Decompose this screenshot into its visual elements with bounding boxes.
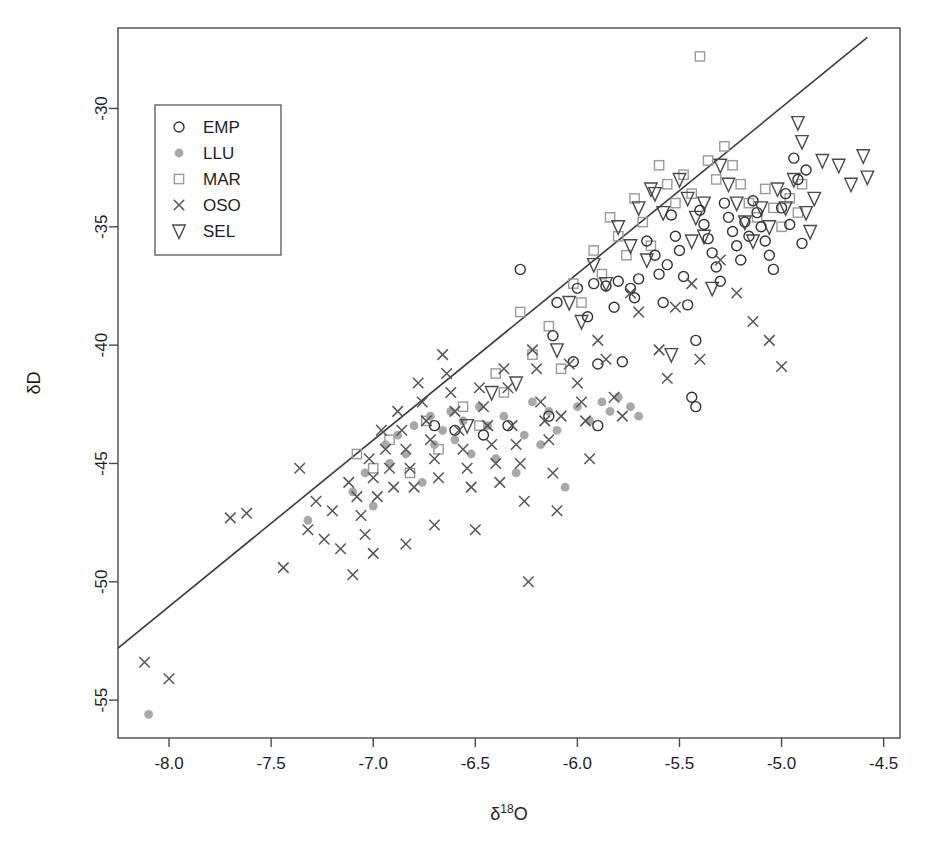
legend-marker-llu — [175, 149, 184, 158]
x-tick-label: -6.0 — [563, 754, 592, 773]
point-llu — [553, 426, 562, 435]
point-llu — [401, 450, 410, 459]
legend-label-oso: OSO — [203, 196, 241, 215]
point-llu — [385, 459, 394, 468]
y-tick-label: -40 — [92, 333, 111, 358]
point-llu — [606, 407, 615, 416]
point-llu — [491, 454, 500, 463]
point-llu — [369, 502, 378, 511]
legend-label-sel: SEL — [203, 222, 235, 241]
point-llu — [410, 421, 419, 430]
point-llu — [626, 402, 635, 411]
y-tick-label: -55 — [92, 688, 111, 713]
y-tick-label: -30 — [92, 96, 111, 121]
point-llu — [512, 469, 521, 478]
x-tick-label: -5.0 — [767, 754, 796, 773]
point-llu — [144, 710, 153, 719]
x-tick-label: -5.5 — [665, 754, 694, 773]
y-axis-title: δD — [24, 371, 44, 394]
y-tick-label: -45 — [92, 451, 111, 476]
scatter-plot-figure: -8.0-7.5-7.0-6.5-6.0-5.5-5.0-4.5 -55-50-… — [0, 0, 930, 859]
legend-label-emp: EMP — [203, 118, 240, 137]
x-tick-label: -4.5 — [869, 754, 898, 773]
x-tick-label: -8.0 — [154, 754, 183, 773]
point-llu — [634, 412, 643, 421]
legend-label-mar: MAR — [203, 170, 241, 189]
y-tick-label: -35 — [92, 215, 111, 240]
point-llu — [450, 435, 459, 444]
point-llu — [499, 412, 508, 421]
point-llu — [598, 398, 607, 407]
chart-legend: EMPLLUMAROSOSEL — [155, 105, 281, 255]
y-tick-label: -50 — [92, 570, 111, 595]
chart-canvas: -8.0-7.5-7.0-6.5-6.0-5.5-5.0-4.5 -55-50-… — [0, 0, 930, 859]
point-llu — [303, 516, 312, 525]
legend-label-llu: LLU — [203, 144, 234, 163]
point-llu — [528, 398, 537, 407]
point-llu — [561, 483, 570, 492]
point-llu — [381, 440, 390, 449]
x-tick-label: -7.5 — [256, 754, 285, 773]
point-llu — [520, 431, 529, 440]
x-tick-label: -7.0 — [359, 754, 388, 773]
x-tick-label: -6.5 — [461, 754, 490, 773]
